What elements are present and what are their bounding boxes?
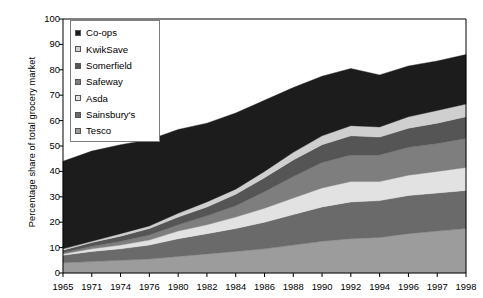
legend-swatch-somerfield [75, 63, 81, 69]
legend-swatch-tesco [75, 128, 81, 134]
y-axis-tick-label: 90 [34, 39, 60, 48]
x-axis-tick-label: 1994 [364, 282, 396, 291]
y-axis-tick-label: 70 [34, 90, 60, 99]
y-axis-tick-label: 20 [34, 217, 60, 226]
legend-item: Somerfield [75, 58, 159, 74]
x-axis-tick-label: 1996 [392, 282, 424, 291]
y-axis-tick-label: 60 [34, 116, 60, 125]
x-axis-tick-label: 1997 [421, 282, 453, 291]
legend-swatch-safeway [75, 79, 81, 85]
x-axis-tick-label: 1988 [277, 282, 309, 291]
stacked-area-chart: Percentage share of total grocery market… [0, 0, 483, 298]
legend-label-asda: Asda [86, 94, 108, 104]
y-axis-tick-label: 0 [34, 268, 60, 277]
x-axis-tick-label: 1976 [133, 282, 165, 291]
x-axis-tick-label: 1974 [105, 282, 137, 291]
y-axis-tick-label: 50 [34, 141, 60, 150]
chart-legend: Co-ops KwikSave Somerfield Safeway Asda … [70, 20, 160, 142]
x-axis-tick-label: 1998 [450, 282, 482, 291]
y-axis-tick-label: 30 [34, 192, 60, 201]
y-axis-tick-label: 80 [34, 65, 60, 74]
legend-swatch-co-ops [75, 30, 81, 36]
y-axis-tick-label: 10 [34, 243, 60, 252]
legend-item: Co-ops [75, 25, 159, 41]
legend-item: KwikSave [75, 41, 159, 57]
x-axis-tick-label: 1971 [76, 282, 108, 291]
legend-item: Tesco [75, 123, 159, 139]
legend-swatch-asda [75, 95, 81, 101]
y-axis-tick-label: 40 [34, 166, 60, 175]
legend-swatch-sainsburys [75, 112, 81, 118]
x-axis-tick-label: 1965 [47, 282, 79, 291]
legend-label-tesco: Tesco [86, 126, 111, 136]
x-axis-tick-label: 1990 [306, 282, 338, 291]
x-axis-tick-label: 1982 [191, 282, 223, 291]
x-axis-tick-label: 1992 [335, 282, 367, 291]
legend-label-safeway: Safeway [86, 77, 123, 87]
legend-item: Sainsbury's [75, 106, 159, 122]
legend-label-kwiksave: KwikSave [86, 45, 128, 55]
legend-label-sainsburys: Sainsbury's [86, 110, 135, 120]
y-axis-tick-label: 100 [34, 14, 60, 23]
x-axis-tick-label: 1986 [249, 282, 281, 291]
y-axis-tick-container: 1009080706050403020100 [32, 0, 60, 298]
x-axis-tick-label: 1984 [220, 282, 252, 291]
legend-label-co-ops: Co-ops [86, 28, 117, 38]
x-axis-tick-label: 1980 [162, 282, 194, 291]
legend-item: Safeway [75, 74, 159, 90]
legend-item: Asda [75, 90, 159, 106]
legend-swatch-kwiksave [75, 46, 81, 52]
legend-label-somerfield: Somerfield [86, 61, 132, 71]
